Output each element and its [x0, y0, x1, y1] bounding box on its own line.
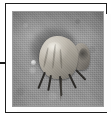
specimen-body-crease: [59, 49, 62, 69]
insect-specimen: [38, 33, 90, 86]
specimen-photograph: [12, 11, 104, 107]
figure-panel: [0, 0, 112, 122]
specimen-leg: [75, 69, 86, 80]
substrate-speck: [31, 60, 36, 65]
